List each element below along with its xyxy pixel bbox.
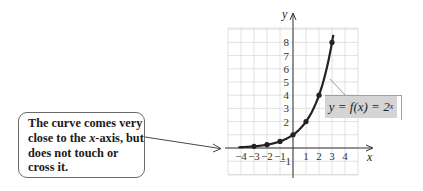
equation-exponent: x	[390, 102, 394, 111]
svg-text:1: 1	[303, 150, 309, 162]
equation-label: y = f(x) = 2x	[325, 96, 397, 118]
svg-text:−1: −1	[279, 155, 291, 167]
svg-text:6: 6	[284, 63, 290, 75]
data-point	[303, 119, 308, 124]
callout-arrow-line	[145, 137, 220, 149]
callout-line-2: close to the x-axis, but	[28, 131, 144, 146]
callout-text: -axis, but	[95, 131, 144, 145]
data-point	[264, 142, 269, 147]
callout-text: close to the	[28, 131, 89, 145]
svg-text:−4: −4	[235, 150, 247, 162]
svg-text:2: 2	[316, 150, 322, 162]
svg-text:3: 3	[329, 150, 335, 162]
data-point	[316, 93, 321, 98]
svg-text:2: 2	[284, 116, 290, 128]
callout-line-1: The curve comes very	[28, 116, 144, 131]
svg-text:−3: −3	[248, 150, 260, 162]
svg-text:4: 4	[342, 150, 348, 162]
data-point	[290, 132, 295, 137]
svg-text:5: 5	[284, 76, 290, 88]
data-point	[277, 139, 282, 144]
y-axis-label: y	[281, 7, 288, 21]
svg-text:8: 8	[284, 36, 290, 48]
asymptote-callout: The curve comes very close to the x-axis…	[18, 112, 145, 178]
data-point	[329, 40, 334, 45]
equation-base: y = f(x) = 2	[329, 99, 390, 115]
callout-line-4: cross it.	[28, 160, 144, 175]
callout-line-3: does not touch or	[28, 146, 144, 161]
svg-text:4: 4	[284, 89, 290, 101]
svg-text:7: 7	[284, 50, 290, 62]
svg-text:3: 3	[284, 102, 290, 114]
data-point	[251, 144, 256, 149]
x-axis-label: x	[366, 150, 373, 164]
svg-text:−2: −2	[261, 150, 273, 162]
